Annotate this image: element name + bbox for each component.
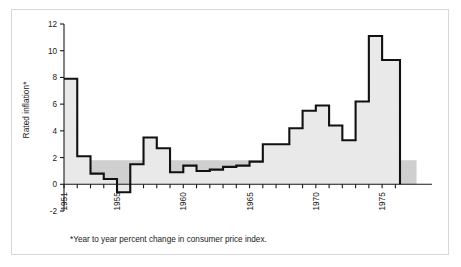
x-axis-tick-labels: 195119551960196519701975 xyxy=(60,192,387,211)
y-tick-label: -2 xyxy=(50,207,58,216)
y-axis-ticks: -2024681012 xyxy=(48,20,64,216)
y-tick-label: 2 xyxy=(52,154,57,163)
x-tick-label: 1965 xyxy=(246,192,255,211)
y-axis-title: Rated inflation* xyxy=(21,81,31,139)
x-tick-label: 1975 xyxy=(378,192,387,211)
x-tick-label: 1960 xyxy=(179,192,188,211)
inflation-step-chart: -2024681012 195119551960196519701975 Rat… xyxy=(12,10,448,254)
y-tick-label: 6 xyxy=(52,100,57,109)
y-tick-label: 0 xyxy=(52,180,57,189)
y-tick-label: 10 xyxy=(48,47,58,56)
y-tick-label: 12 xyxy=(48,20,58,29)
figure-root: -2024681012 195119551960196519701975 Rat… xyxy=(0,0,461,267)
x-tick-label: 1951 xyxy=(60,192,69,211)
figure-frame: -2024681012 195119551960196519701975 Rat… xyxy=(11,9,449,255)
x-tick-label: 1970 xyxy=(312,192,321,211)
y-tick-label: 4 xyxy=(52,127,57,136)
x-tick-label: 1955 xyxy=(113,192,122,211)
chart-footnote: *Year to year percent change in consumer… xyxy=(70,235,267,244)
y-tick-label: 8 xyxy=(52,73,57,82)
x-axis-ticks xyxy=(64,184,395,188)
